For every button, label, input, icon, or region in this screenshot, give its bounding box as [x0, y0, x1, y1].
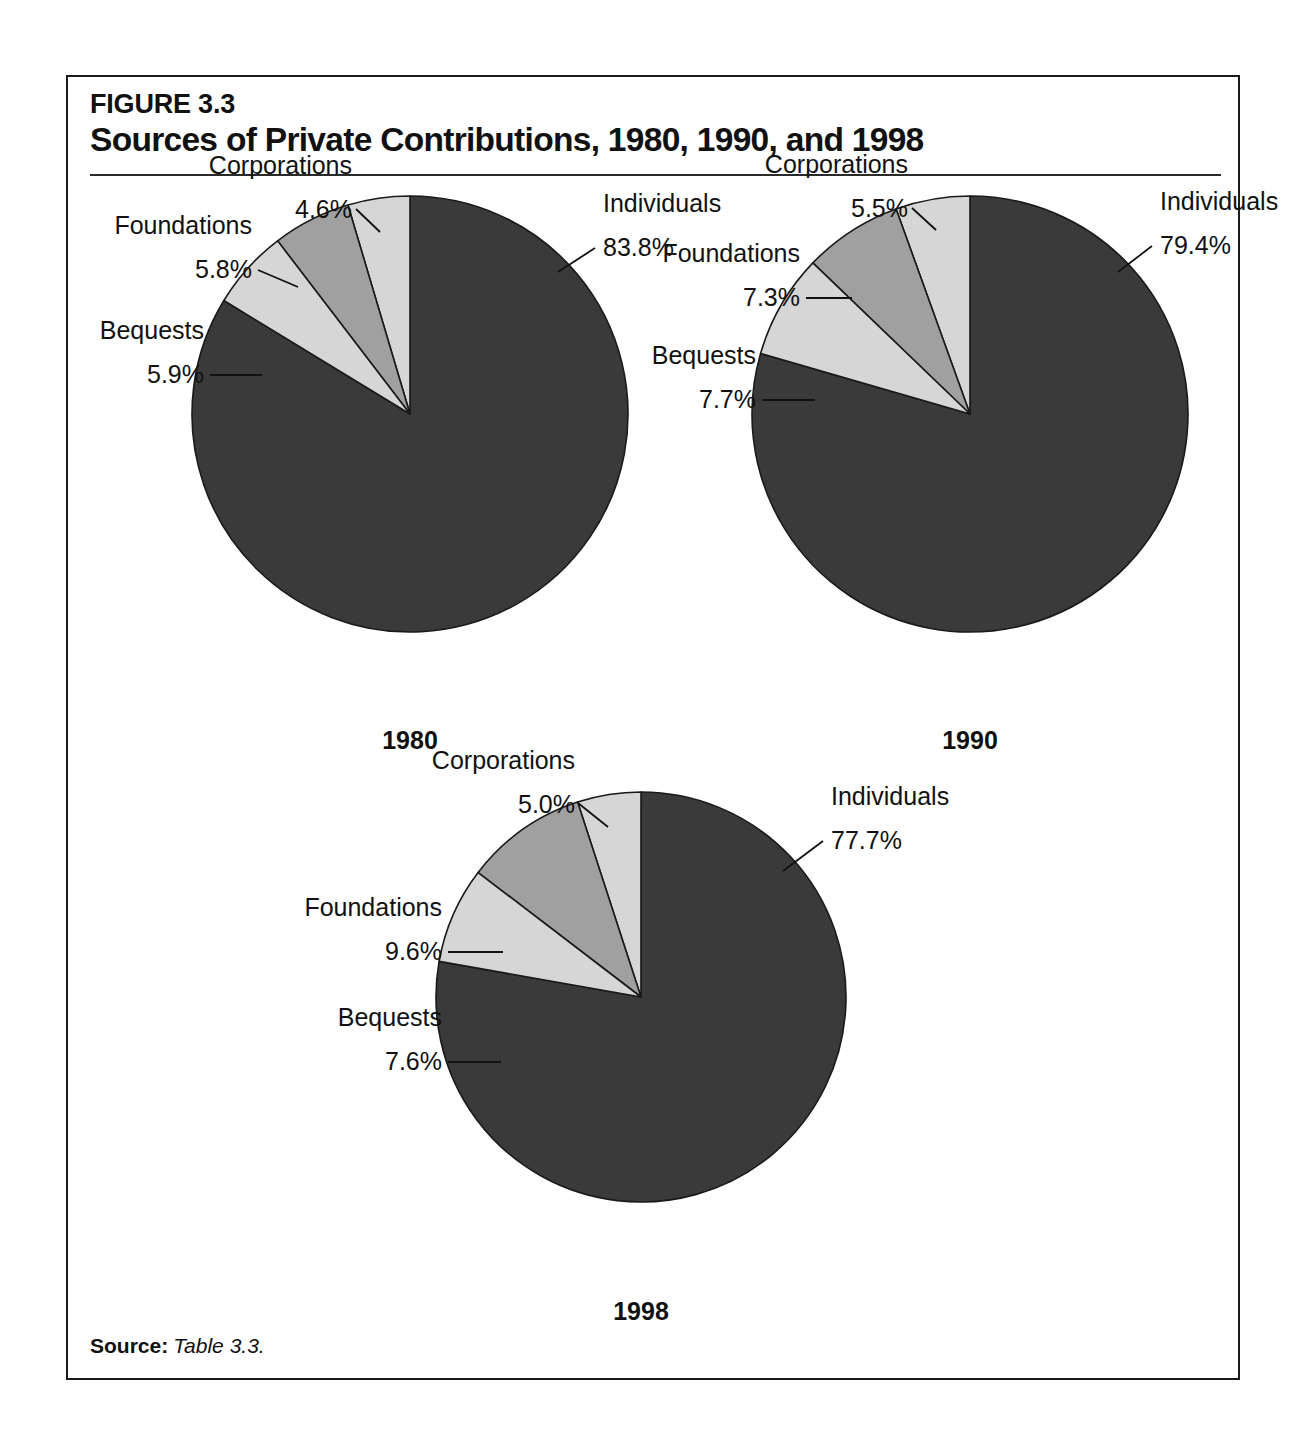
pie-chart-1990: Individuals 79.4% Corporations 5.5% Foun…: [630, 182, 1210, 762]
label-individuals-name: Individuals: [1160, 187, 1278, 215]
pie-svg-1980: Individuals 83.8% Corporations 4.6% Foun…: [70, 182, 650, 762]
label-foundations-name: Foundations: [114, 211, 252, 239]
pie-year-label-1980: 1980: [382, 726, 438, 754]
label-bequests-value: 7.6%: [385, 1047, 442, 1075]
pie-slices-1990: [752, 196, 1188, 632]
label-bequests-value: 5.9%: [147, 360, 204, 388]
label-foundations-value: 5.8%: [195, 255, 252, 283]
label-foundations-value: 9.6%: [385, 937, 442, 965]
label-foundations-value: 7.3%: [743, 283, 800, 311]
label-bequests-value: 7.7%: [699, 385, 756, 413]
label-individuals-value: 79.4%: [1160, 231, 1231, 259]
source-reference: Table 3.3.: [168, 1334, 264, 1357]
label-bequests-name: Bequests: [100, 316, 204, 344]
pie-slices-1998: [436, 792, 846, 1202]
label-foundations-name: Foundations: [304, 893, 442, 921]
pie-svg-1998: Individuals 77.7% Corporations 5.0% Foun…: [313, 767, 893, 1347]
pie-chart-1998: Individuals 77.7% Corporations 5.0% Foun…: [313, 767, 893, 1347]
label-foundations-name: Foundations: [662, 239, 800, 267]
label-individuals-value: 77.7%: [831, 826, 902, 854]
label-corporations-name: Corporations: [765, 150, 908, 178]
figure-number: FIGURE 3.3: [90, 89, 235, 120]
label-corporations-value: 5.5%: [851, 194, 908, 222]
pie-slices-1980: [192, 196, 628, 632]
label-bequests-name: Bequests: [652, 341, 756, 369]
label-individuals-name: Individuals: [831, 782, 949, 810]
pie-svg-1990: Individuals 79.4% Corporations 5.5% Foun…: [630, 182, 1210, 762]
source-line: Source:Table 3.3.: [90, 1334, 265, 1358]
label-corporations-value: 4.6%: [295, 195, 352, 223]
label-bequests-name: Bequests: [338, 1003, 442, 1031]
source-label: Source:: [90, 1334, 168, 1357]
pie-year-label-1998: 1998: [613, 1297, 669, 1325]
label-corporations-name: Corporations: [209, 151, 352, 179]
pie-year-label-1990: 1990: [942, 726, 998, 754]
pie-chart-1980: Individuals 83.8% Corporations 4.6% Foun…: [70, 182, 650, 762]
label-corporations-name: Corporations: [432, 746, 575, 774]
label-corporations-value: 5.0%: [518, 790, 575, 818]
figure-frame: FIGURE 3.3 Sources of Private Contributi…: [66, 75, 1240, 1380]
